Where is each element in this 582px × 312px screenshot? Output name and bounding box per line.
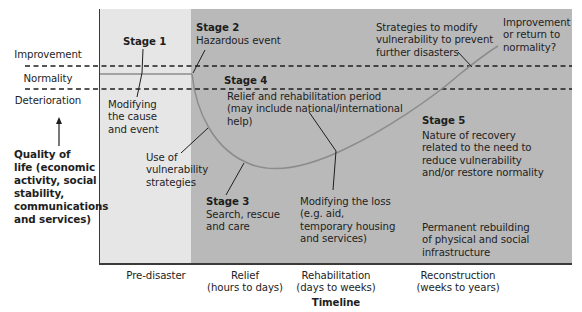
note-line: vulnerability to prevent	[376, 34, 493, 46]
vulnerability-strategies-note: Use of vulnerability strategies	[146, 152, 208, 189]
stage3-description: Search, rescue and care	[206, 209, 280, 234]
stage5-desc-line: Nature of recovery	[422, 130, 544, 142]
phase-line: (days to weeks)	[286, 282, 386, 294]
stage1-desc-line: and event	[108, 124, 159, 136]
stage5-desc-line: related to the need to	[422, 142, 544, 154]
y-axis-label-line: stability,	[14, 187, 108, 200]
y-axis-label: Quality of life (economic activity, soci…	[14, 148, 108, 226]
stage5-desc-line: reduce vulnerability	[422, 155, 544, 167]
stage2-pointer	[193, 50, 205, 73]
stage4-title: Stage 4	[224, 75, 267, 87]
y-axis-label-line: activity, social	[14, 174, 108, 187]
stage5-description: Nature of recovery related to the need t…	[422, 130, 544, 180]
stage1-description: Modifying the cause and event	[108, 99, 159, 136]
stage4-description: Relief and rehabilitation period (may in…	[227, 91, 403, 128]
note-line: Strategies to modify	[376, 22, 493, 34]
stage3-desc-line: Search, rescue	[206, 209, 280, 221]
note-line: or return to	[503, 29, 570, 41]
y-axis-label-line: Quality of	[14, 148, 108, 161]
note-line: and services)	[300, 233, 395, 245]
stage3-title: Stage 3	[206, 196, 249, 208]
stage5-desc-line: and/or restore normality	[422, 167, 544, 179]
stage2-title: Stage 2	[196, 22, 239, 34]
stage1-title: Stage 1	[123, 36, 166, 48]
phase-line: Rehabilitation	[286, 270, 386, 282]
phase-line: Reconstruction	[403, 270, 513, 282]
note-line: of physical and social	[422, 234, 530, 246]
note-line: Modifying the loss	[300, 196, 395, 208]
stage3-pointer	[226, 163, 244, 195]
stage1-desc-line: the cause	[108, 111, 159, 123]
phase-reconstruction: Reconstruction (weeks to years)	[403, 270, 513, 295]
improvement-question-note: Improvement or return to normality?	[503, 17, 570, 54]
note-line: Use of	[146, 152, 208, 164]
stage4-desc-line: Relief and rehabilitation period	[227, 91, 403, 103]
x-axis-title: Timeline	[286, 297, 386, 309]
modifying-loss-note: Modifying the loss (e.g. aid, temporary …	[300, 196, 395, 246]
stage3-desc-line: and care	[206, 221, 280, 233]
stage1-pointer	[137, 49, 143, 97]
stage1-desc-line: Modifying	[108, 99, 159, 111]
y-axis-arrow-head	[56, 117, 62, 124]
permanent-rebuilding-note: Permanent rebuilding of physical and soc…	[422, 222, 530, 259]
note-line: vulnerability	[146, 164, 208, 176]
level-improvement: Improvement	[4, 49, 92, 61]
strategies-note: Strategies to modify vulnerability to pr…	[376, 22, 493, 59]
stage4-desc-line: (may include national/international	[227, 103, 403, 115]
note-line: Permanent rebuilding	[422, 222, 530, 234]
vulnerability-pointer	[181, 128, 208, 153]
level-deterioration: Deterioration	[4, 95, 92, 107]
modifying-loss-pointer	[333, 151, 336, 190]
stage5-title: Stage 5	[422, 115, 465, 127]
level-normality: Normality	[4, 73, 92, 85]
y-axis-label-line: communications	[14, 200, 108, 213]
phase-pre-disaster: Pre-disaster	[106, 270, 206, 282]
phase-line: Relief	[195, 270, 295, 282]
y-axis-label-line: life (economic	[14, 161, 108, 174]
stage4-desc-line: help)	[227, 116, 403, 128]
note-line: (e.g. aid,	[300, 208, 395, 220]
y-axis-label-line: and services)	[14, 213, 108, 226]
note-line: normality?	[503, 42, 570, 54]
note-line: strategies	[146, 177, 208, 189]
note-line: further disasters	[376, 47, 493, 59]
note-line: infrastructure	[422, 247, 530, 259]
phase-line: (weeks to years)	[403, 282, 513, 294]
stage2-description: Hazardous event	[196, 35, 281, 47]
phase-relief: Relief (hours to days)	[195, 270, 295, 295]
phase-rehabilitation: Rehabilitation (days to weeks)	[286, 270, 386, 295]
note-line: Improvement	[503, 17, 570, 29]
note-line: temporary housing	[300, 221, 395, 233]
phase-line: (hours to days)	[195, 282, 295, 294]
